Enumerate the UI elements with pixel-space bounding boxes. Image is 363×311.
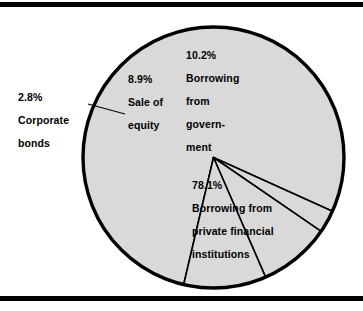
slice-label-private-line1: Borrowing from (192, 202, 272, 214)
slice-label-equity-percent: 8.9% (128, 73, 152, 85)
slice-label-private-line3: institutions (192, 248, 250, 260)
slice-label-gov-percent: 10.2% (186, 49, 216, 61)
slice-label-bonds-percent: 2.8% (18, 91, 42, 103)
slice-label-gov-line4: ment (186, 141, 212, 153)
slice-label-gov-line3: govern- (186, 118, 225, 130)
pie-chart-svg (0, 0, 363, 311)
slice-label-bonds-line2: bonds (18, 137, 50, 149)
slice-label-corporate-bonds: 2.8% Corporate bonds (18, 80, 90, 150)
slice-label-private-line2: private financial (192, 225, 274, 237)
slice-label-gov-line2: from (186, 95, 210, 107)
slice-label-equity-line1: Sale of (128, 96, 163, 108)
slice-label-private-percent: 78.1% (192, 179, 222, 191)
slice-label-sale-of-equity: 8.9% Sale of equity (128, 62, 186, 132)
slice-label-private-financial-institutions: 78.1% Borrowing from private financial i… (192, 168, 300, 261)
pie-chart-figure: 10.2% Borrowing from govern- ment 8.9% S… (0, 0, 363, 311)
slice-label-equity-line2: equity (128, 119, 160, 131)
slice-label-bonds-line1: Corporate (18, 114, 69, 126)
slice-label-gov-line1: Borrowing (186, 72, 239, 84)
slice-label-borrowing-from-government: 10.2% Borrowing from govern- ment (186, 38, 248, 154)
